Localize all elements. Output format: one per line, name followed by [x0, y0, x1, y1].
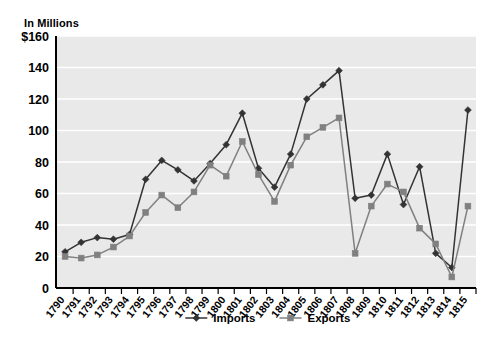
data-point — [175, 205, 181, 211]
data-point — [143, 210, 149, 216]
y-axis-tick-label: 120 — [28, 93, 49, 107]
data-point — [239, 139, 245, 145]
data-point — [62, 254, 68, 260]
y-axis-tick-label: $160 — [21, 30, 49, 44]
x-axis-tick-label: 1815 — [446, 294, 470, 320]
chart-container: In Millions 020406080100120140$160 17901… — [0, 0, 486, 340]
y-axis-tick-label: 60 — [35, 187, 49, 201]
y-axis-tick-label: 100 — [28, 124, 49, 138]
data-point — [368, 203, 374, 209]
data-point — [401, 189, 407, 195]
data-point — [352, 250, 358, 256]
data-point — [384, 181, 390, 187]
data-point — [417, 225, 423, 231]
data-point — [207, 162, 213, 168]
y-axis-tick-label: 80 — [35, 156, 49, 170]
data-point — [433, 241, 439, 247]
data-point — [320, 124, 326, 130]
data-point — [272, 198, 278, 204]
data-point — [256, 172, 262, 178]
data-point — [449, 274, 455, 280]
y-axis-tick-label: 0 — [42, 282, 49, 296]
legend-marker — [288, 315, 294, 321]
data-point — [127, 233, 133, 239]
x-axis-tick-labels: 1790179117921793179417951796179717981799… — [43, 294, 470, 320]
data-point — [465, 203, 471, 209]
y-axis-tick-label: 20 — [35, 250, 49, 264]
data-point — [111, 244, 117, 250]
data-point — [288, 162, 294, 168]
data-point — [304, 134, 310, 140]
data-point — [223, 173, 229, 179]
legend-label: Exports — [308, 312, 351, 324]
data-point — [159, 192, 165, 198]
legend-label: Imports — [213, 312, 255, 324]
y-axis-units-label: In Millions — [24, 17, 79, 29]
data-point — [191, 189, 197, 195]
y-axis-tick-labels: 020406080100120140$160 — [21, 30, 49, 296]
data-point — [336, 115, 342, 121]
y-axis-tick-label: 140 — [28, 61, 49, 75]
imports-exports-line-chart: 020406080100120140$160 17901791179217931… — [0, 0, 486, 340]
y-axis-tick-label: 40 — [35, 219, 49, 233]
data-point — [78, 255, 84, 261]
data-point — [94, 252, 100, 258]
